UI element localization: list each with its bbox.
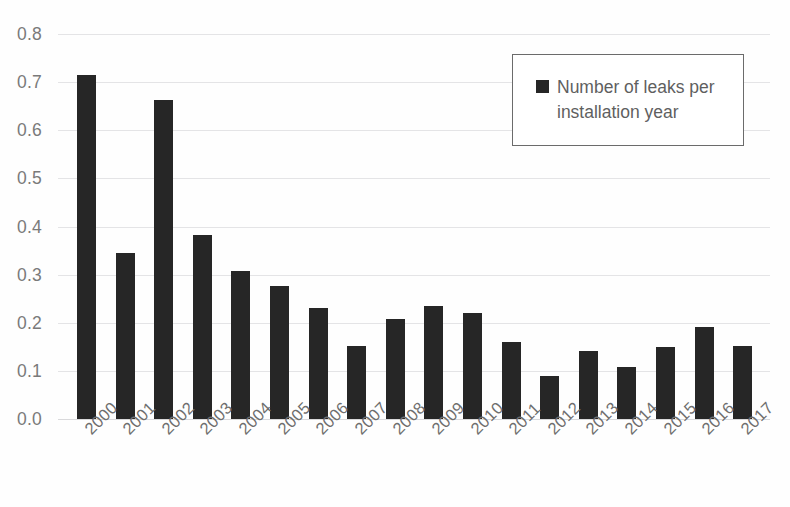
bar[interactable] — [386, 319, 405, 419]
y-axis-tick-label: 0.5 — [17, 168, 42, 189]
bar[interactable] — [733, 346, 752, 419]
y-axis-tick-label: 0.7 — [17, 72, 42, 93]
bar[interactable] — [695, 327, 714, 419]
bar[interactable] — [347, 346, 366, 419]
legend-entry: Number of leaks per installation year — [536, 75, 731, 125]
bar[interactable] — [154, 100, 173, 419]
y-axis-tick-label: 0.2 — [17, 312, 42, 333]
bar[interactable] — [656, 347, 675, 419]
bar[interactable] — [502, 342, 521, 419]
legend-entry-label: Number of leaks per installation year — [557, 75, 731, 125]
y-axis-tick-label: 0.1 — [17, 360, 42, 381]
bar-chart: 0.00.10.20.30.40.50.60.70.8 200020012002… — [0, 0, 790, 507]
bar[interactable] — [463, 313, 482, 419]
bar[interactable] — [116, 253, 135, 419]
bar[interactable] — [309, 308, 328, 419]
y-axis-tick-label: 0.0 — [17, 409, 42, 430]
bar[interactable] — [270, 286, 289, 419]
x-axis: 2000200120022003200420052006200720082009… — [58, 419, 770, 489]
bar[interactable] — [231, 271, 250, 419]
bar[interactable] — [77, 75, 96, 419]
legend-square-marker-icon — [536, 80, 549, 93]
chart-legend: Number of leaks per installation year — [512, 54, 744, 146]
bar[interactable] — [424, 306, 443, 419]
y-axis-tick-label: 0.6 — [17, 120, 42, 141]
y-axis-tick-label: 0.3 — [17, 264, 42, 285]
y-axis-tick-label: 0.8 — [17, 24, 42, 45]
y-axis-tick-label: 0.4 — [17, 216, 42, 237]
y-axis: 0.00.10.20.30.40.50.60.70.8 — [0, 34, 52, 419]
bar[interactable] — [193, 235, 212, 419]
